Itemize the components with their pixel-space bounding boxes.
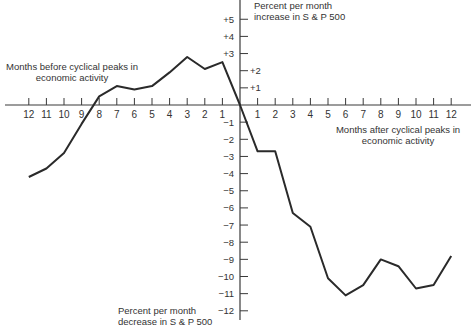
y-tick-label: +5 [223,14,234,25]
x-tick-label: 11 [41,109,52,120]
y-axis-top-label: Percent per month increase in S & P 500 [254,0,345,22]
x-tick-label: 12 [446,109,458,120]
x-tick-label: 5 [325,109,331,120]
x-left-label-line2: economic activity [4,72,140,83]
x-left-label-line1: Months before cyclical peaks in [4,61,140,72]
x-tick-label: 7 [114,109,120,120]
x-tick-label: 4 [308,109,314,120]
x-right-label-line1: Months after cyclical peaks in [327,124,469,135]
x-right-label-line2: economic activity [327,135,469,146]
x-tick-label: 2 [272,109,278,120]
y-tick-label: +2 [250,65,261,76]
y-tick-label: +3 [223,48,234,59]
y-tick-label: −11 [219,288,234,299]
y-tick-label: −3 [223,151,234,162]
y-bottom-label-line1: Percent per month [118,305,212,316]
x-tick-label: 8 [96,109,102,120]
y-tick-label: −5 [223,185,234,196]
y-tick-label: −7 [223,220,234,231]
axes [5,0,471,320]
x-tick-label: 5 [149,109,155,120]
x-tick-label: 6 [132,109,138,120]
y-top-label-line2: increase in S & P 500 [254,11,345,22]
x-tick-label: 6 [343,109,349,120]
chart-canvas: 121110987654321123456789101112+1+2+3+4+5… [0,0,471,329]
y-tick-label: −8 [223,237,234,248]
y-tick-label: +4 [223,31,234,42]
x-tick-label: 4 [167,109,173,120]
y-tick-label: −9 [223,254,234,265]
x-axis-right-label: Months after cyclical peaks in economic … [327,124,469,146]
x-tick-label: 10 [410,109,422,120]
x-tick-label: 2 [202,109,208,120]
y-tick-label: −10 [218,271,234,282]
x-tick-label: 9 [396,109,402,120]
x-tick-label: 9 [79,109,85,120]
x-tick-label: 8 [378,109,384,120]
x-tick-label: 3 [290,109,296,120]
x-tick-label: 12 [23,109,35,120]
y-tick-label: −4 [223,168,234,179]
y-tick-label: −1 [223,117,234,128]
x-tick-label: 10 [58,109,70,120]
y-tick-label: +1 [250,82,261,93]
x-tick-label: 11 [428,109,439,120]
y-tick-label: −6 [223,202,234,213]
y-bottom-label-line2: decrease in S & P 500 [118,316,212,327]
y-axis-bottom-label: Percent per month decrease in S & P 500 [118,305,212,327]
x-tick-label: 7 [360,109,366,120]
y-tick-label: −12 [218,305,234,316]
x-axis-left-label: Months before cyclical peaks in economic… [4,61,140,83]
y-tick-label: −2 [223,134,234,145]
x-tick-label: 1 [255,109,261,120]
x-tick-label: 3 [184,109,190,120]
y-top-label-line1: Percent per month [254,0,345,11]
